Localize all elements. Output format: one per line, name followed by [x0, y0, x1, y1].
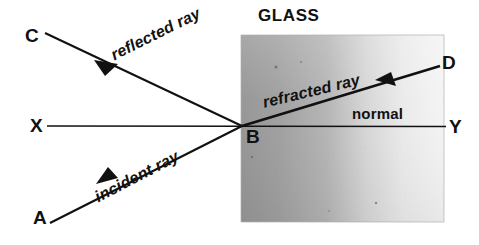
glass-block	[241, 35, 444, 222]
point-label-a: A	[33, 208, 47, 227]
refraction-diagram: GLASS C A X Y D B reflected ray incident…	[0, 0, 479, 245]
point-label-x: X	[30, 116, 43, 135]
glass-medium-label: GLASS	[258, 7, 320, 24]
point-label-y: Y	[449, 117, 462, 136]
diagram-canvas	[0, 0, 479, 245]
point-label-b: B	[246, 127, 260, 146]
point-label-c: C	[25, 26, 39, 45]
point-label-d: D	[442, 53, 456, 72]
normal-line-label: normal	[352, 106, 403, 121]
